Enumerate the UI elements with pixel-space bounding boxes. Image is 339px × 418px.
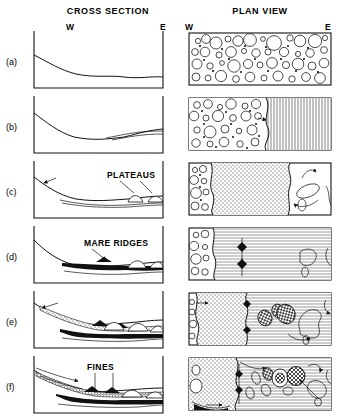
panel-b-cross-section bbox=[34, 96, 163, 153]
panel-b-plan-view bbox=[189, 98, 331, 150]
panel-f-cross-section: FINES bbox=[34, 356, 163, 413]
annotation-mare-ridges: MARE RIDGES bbox=[84, 238, 148, 248]
annotation-plateaus: PLATEAUS bbox=[107, 170, 155, 180]
panel-a-plan-view bbox=[189, 33, 331, 85]
panel-c-cross-section: PLATEAUS bbox=[34, 161, 163, 218]
panel-a-cross-section bbox=[34, 31, 163, 88]
figure-root: CROSS SECTION PLAN VIEW W E W E (a) (b) … bbox=[0, 0, 339, 418]
panel-d-cross-section: MARE RIDGES bbox=[34, 226, 163, 283]
panel-f-plan-view bbox=[189, 358, 331, 410]
panel-d-plan-view bbox=[189, 228, 331, 280]
annotation-fines: FINES bbox=[87, 362, 114, 372]
panel-c-plan-view bbox=[189, 163, 331, 215]
panel-e-cross-section bbox=[34, 291, 163, 348]
panel-e-plan-view bbox=[189, 293, 331, 345]
figure-canvas: PLATEAUS bbox=[0, 0, 339, 418]
